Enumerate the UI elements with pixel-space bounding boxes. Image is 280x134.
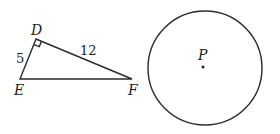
geometry-figure: D E F 5 12 P bbox=[0, 0, 280, 134]
vertex-label-e: E bbox=[13, 82, 24, 98]
side-label-de: 5 bbox=[16, 51, 24, 66]
center-point bbox=[202, 66, 205, 69]
circle-p: P bbox=[148, 11, 262, 125]
side-label-df: 12 bbox=[80, 43, 97, 58]
vertex-label-d: D bbox=[30, 22, 42, 38]
center-label-p: P bbox=[197, 47, 208, 63]
right-triangle-def: D E F 5 12 bbox=[13, 22, 139, 98]
circle-outline bbox=[148, 11, 262, 125]
vertex-label-f: F bbox=[127, 82, 139, 98]
